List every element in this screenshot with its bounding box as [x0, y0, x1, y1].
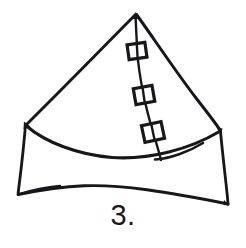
seam-through-marker-upper-stroke — [137, 44, 138, 58]
figure-caption: 3. — [0, 198, 246, 232]
front-rim-right-tail-stroke — [155, 143, 203, 160]
left-side-wall-stroke — [18, 126, 26, 195]
figure-panel: 3. — [0, 0, 246, 248]
left-slant-edge-stroke — [27, 15, 136, 125]
front-rim-curve-stroke — [27, 126, 220, 158]
right-side-wall-stroke — [221, 132, 229, 205]
right-slant-edge-stroke — [137, 15, 221, 131]
